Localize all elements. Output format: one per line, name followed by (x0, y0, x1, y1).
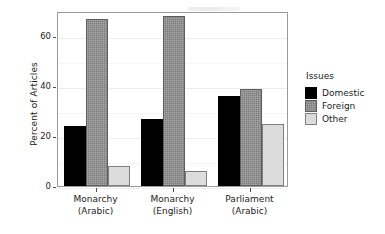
legend-items: DomesticForeignOther (305, 86, 383, 125)
bar-other-group-2 (185, 171, 207, 186)
x-group-label-line: (Arabic) (205, 206, 295, 218)
y-tick-label: 20 (31, 132, 51, 141)
legend-item-foreign[interactable]: Foreign (305, 99, 383, 112)
legend-label-domestic: Domestic (322, 88, 364, 98)
legend-item-other[interactable]: Other (305, 112, 383, 125)
x-tick-mark (96, 188, 97, 192)
legend-swatch-foreign (305, 100, 317, 112)
y-tick-label: 0 (31, 182, 51, 191)
bar-domestic-group-2 (141, 119, 163, 187)
legend: Issues DomesticForeignOther (305, 71, 383, 125)
bar-foreign-group-3 (240, 89, 262, 187)
x-tick-mark (173, 188, 174, 192)
legend-title: Issues (305, 71, 383, 81)
x-tick-mark (250, 188, 251, 192)
legend-swatch-domestic (305, 87, 317, 99)
x-group-label-3: Parliament(Arabic) (205, 194, 295, 217)
x-group-label-line: Parliament (205, 194, 295, 206)
scan-artifact (188, 7, 240, 11)
bar-other-group-3 (262, 124, 284, 187)
legend-label-other: Other (322, 114, 348, 124)
bar-domestic-group-3 (218, 96, 240, 186)
y-tick-mark (53, 37, 56, 38)
y-tick-mark (53, 187, 56, 188)
bar-foreign-group-1 (86, 19, 108, 187)
y-tick-mark (53, 137, 56, 138)
y-axis-title: Percent of Articles (29, 39, 39, 169)
legend-label-foreign: Foreign (322, 101, 355, 111)
bar-domestic-group-1 (64, 126, 86, 186)
bar-other-group-1 (108, 166, 130, 186)
plot-panel (57, 12, 288, 187)
y-tick-mark (53, 87, 56, 88)
bar-chart: Percent of Articles 0204060 Monarchy(Ara… (0, 0, 385, 234)
legend-item-domestic[interactable]: Domestic (305, 86, 383, 99)
y-tick-label: 60 (31, 32, 51, 41)
bar-foreign-group-2 (163, 16, 185, 186)
legend-swatch-other (305, 113, 317, 125)
y-tick-label: 40 (31, 82, 51, 91)
